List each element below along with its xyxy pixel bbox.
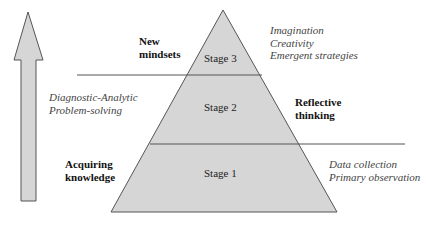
- label-line: Problem-solving: [49, 104, 138, 117]
- stage-2-label: Stage 2: [204, 101, 237, 114]
- new-mindsets-label: New mindsets: [139, 35, 181, 60]
- label-line: Primary observation: [329, 171, 420, 184]
- label-line: Acquiring: [65, 158, 115, 171]
- pyramid-diagram: Stage 3 Stage 2 Stage 1 New mindsets Dia…: [0, 0, 426, 226]
- diagnostic-analytic-label: Diagnostic-Analytic Problem-solving: [49, 91, 138, 116]
- label-line: Creativity: [270, 37, 358, 50]
- data-collection-label: Data collection Primary observation: [329, 158, 420, 183]
- stage-1-label: Stage 1: [204, 167, 237, 180]
- label-line: mindsets: [139, 48, 181, 61]
- label-line: Imagination: [270, 24, 358, 37]
- label-line: knowledge: [65, 171, 115, 184]
- imagination-creativity-label: Imagination Creativity Emergent strategi…: [270, 24, 358, 62]
- stage-3-label: Stage 3: [204, 52, 237, 65]
- label-line: New: [139, 35, 181, 48]
- label-line: Emergent strategies: [270, 49, 358, 62]
- label-line: Reflective: [295, 96, 341, 109]
- acquiring-knowledge-label: Acquiring knowledge: [65, 158, 115, 183]
- reflective-thinking-label: Reflective thinking: [295, 96, 341, 121]
- label-line: Data collection: [329, 158, 420, 171]
- label-line: Diagnostic-Analytic: [49, 91, 138, 104]
- upward-arrow-icon: [14, 12, 43, 201]
- label-line: thinking: [295, 109, 341, 122]
